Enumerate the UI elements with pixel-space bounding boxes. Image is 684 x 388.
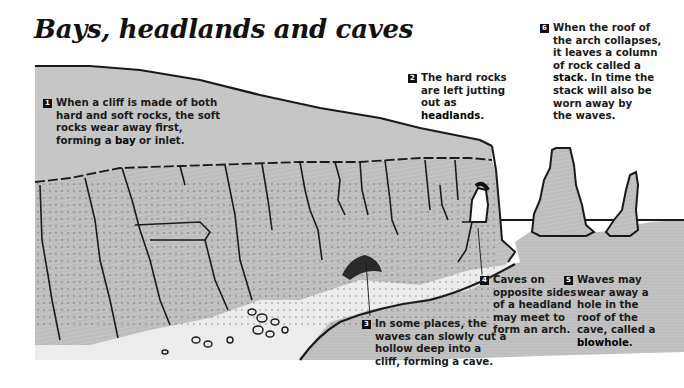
callout-headlands: 2 The hard rocks are left jutting out as… (408, 72, 507, 122)
callout-number-1: 1 (43, 99, 52, 108)
term-bay: bay (115, 135, 136, 146)
term-headlands: headlands (421, 110, 480, 121)
callout-number-4: 4 (480, 276, 489, 285)
callout-bay: 1 When a cliff is made of both hard and … (43, 97, 220, 147)
cliff-face (35, 146, 515, 345)
callout-blowhole: 5 Waves may wear away a hole in the roof… (564, 274, 655, 350)
callout-number-6: 6 (540, 24, 549, 33)
callout-number-2: 2 (408, 74, 417, 83)
callout-arch: 4 Caves on opposite sides of a headland … (480, 274, 576, 337)
callout-number-3: 3 (362, 320, 371, 329)
sea-stack (532, 148, 594, 236)
term-stack: stack (553, 72, 584, 83)
callout-number-5: 5 (564, 276, 573, 285)
small-sea-stack (606, 172, 638, 236)
callout-stack: 6 When the roof of the arch collapses, i… (540, 22, 661, 123)
term-blowhole: blowhole (577, 337, 629, 348)
